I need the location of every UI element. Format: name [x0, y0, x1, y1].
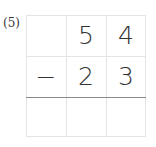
minus-sign: −: [26, 56, 66, 97]
cell-r0-c1: 5: [66, 15, 106, 56]
cell-r0-c0: [26, 15, 66, 56]
subtraction-grid: 5 4 − 2 3: [26, 15, 146, 137]
answer-cell-0[interactable]: [26, 97, 66, 138]
problem-number: (5): [3, 16, 20, 30]
answer-cell-2[interactable]: [106, 97, 146, 138]
cell-r1-c1: 2: [66, 56, 106, 97]
answer-cell-1[interactable]: [66, 97, 106, 138]
cell-r1-c2: 3: [106, 56, 146, 97]
cell-r0-c2: 4: [106, 15, 146, 56]
